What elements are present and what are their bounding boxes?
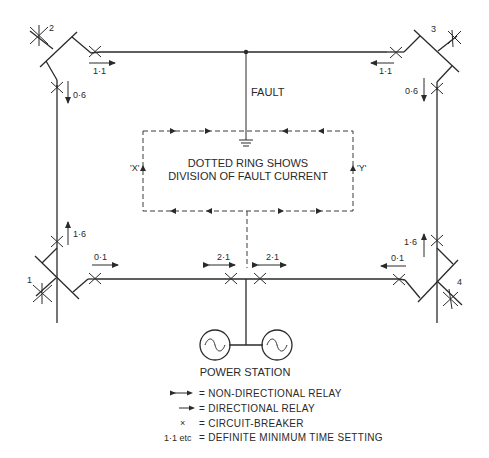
ring-note-line2: DIVISION OF FAULT CURRENT xyxy=(168,170,328,182)
legend-item: = CIRCUIT-BREAKER xyxy=(199,418,304,429)
dotted-ring: 'X' 'Y' DOTTED RING SHOWS DIVISION OF FA… xyxy=(130,128,367,268)
relay-setting: 1·6 xyxy=(73,229,86,239)
busbar-3: 3 xyxy=(387,24,459,90)
legend-item: = DEFINITE MINIMUM TIME SETTING xyxy=(199,432,383,443)
relay-setting: 2·1 xyxy=(217,252,230,262)
legend-symbol: 1·1 etc xyxy=(164,433,192,443)
legend: = NON-DIRECTIONAL RELAY = DIRECTIONAL RE… xyxy=(164,388,383,443)
relay-setting: 1·1 xyxy=(379,66,392,76)
busbar-2: 2 xyxy=(30,23,100,88)
power-station-label: POWER STATION xyxy=(200,366,291,378)
relay-setting: 0·6 xyxy=(405,86,418,96)
ring-label-y: 'Y' xyxy=(357,163,367,173)
busbar-label: 2 xyxy=(49,23,54,33)
relay-setting: 2·1 xyxy=(266,252,279,262)
fault: FAULT xyxy=(239,50,285,146)
relay-setting: 0·1 xyxy=(391,253,404,263)
fault-label: FAULT xyxy=(251,86,285,98)
legend-item: = DIRECTIONAL RELAY xyxy=(199,403,315,414)
circuit-breaker-icon xyxy=(33,283,52,304)
ring-feeders xyxy=(57,52,437,323)
relay-setting: 1·1 xyxy=(93,66,106,76)
busbar-1: 1 xyxy=(27,248,96,299)
busbar-label: 3 xyxy=(431,24,436,34)
ring-note-line1: DOTTED RING SHOWS xyxy=(188,157,308,169)
relay-setting: 1·6 xyxy=(404,237,417,247)
busbar-label: 4 xyxy=(457,277,462,287)
circuit-breaker-icon: × xyxy=(180,418,185,428)
power-station: POWER STATION xyxy=(200,279,292,378)
ring-main-diagram: 2 3 1 4 xyxy=(0,0,489,458)
legend-item: = NON-DIRECTIONAL RELAY xyxy=(199,388,342,399)
relay-setting: 0·6 xyxy=(73,90,86,100)
busbar-label: 1 xyxy=(27,275,32,285)
ring-label-x: 'X' xyxy=(130,163,140,173)
relay-setting: 0·1 xyxy=(94,252,107,262)
